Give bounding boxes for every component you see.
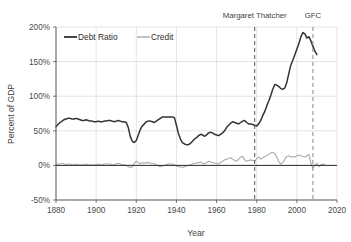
series-line-debt-ratio: [56, 33, 317, 145]
legend-label-credit: Credit: [151, 32, 174, 42]
annotation-label-gfc: GFC: [305, 11, 322, 20]
y-tick-label: 150%: [29, 58, 50, 67]
x-tick-label: 1920: [127, 206, 146, 215]
y-axis-tick-labels: -50%0%50%100%150%200%: [29, 23, 56, 205]
y-tick-label: 50%: [34, 127, 50, 136]
y-tick-label: -50%: [31, 196, 50, 205]
x-axis-tick-labels: 18801900192019401960198020002020: [47, 200, 347, 215]
x-tick-label: 1960: [207, 206, 226, 215]
x-tick-label: 1900: [87, 206, 106, 215]
chart-legend: Debt RatioCredit: [64, 32, 174, 42]
x-tick-label: 1940: [167, 206, 186, 215]
x-tick-label: 2020: [328, 206, 347, 215]
y-axis-title: Percent of GDP: [6, 84, 16, 144]
chart-container: Margaret ThatcherGFC 1880190019201940196…: [0, 0, 351, 242]
x-tick-label: 1880: [47, 206, 66, 215]
y-tick-label: 0%: [38, 161, 50, 170]
y-tick-label: 100%: [29, 92, 50, 101]
y-tick-label: 200%: [29, 23, 50, 32]
x-axis-title: Year: [187, 228, 205, 238]
legend-label-debt-ratio: Debt Ratio: [78, 32, 118, 42]
x-tick-label: 1980: [248, 206, 267, 215]
annotations-layer: Margaret ThatcherGFC: [223, 11, 322, 200]
annotation-label-margaret-thatcher: Margaret Thatcher: [223, 11, 287, 20]
debt-ratio-credit-line-chart: Margaret ThatcherGFC 1880190019201940196…: [0, 0, 351, 242]
x-tick-label: 2000: [288, 206, 307, 215]
